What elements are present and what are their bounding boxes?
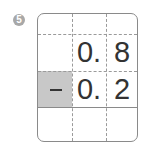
answer-tenths-cell[interactable] — [106, 111, 138, 141]
row-divider-1 — [38, 34, 137, 35]
problem-number-badge: 5 — [13, 14, 25, 26]
answer-operator-cell[interactable] — [38, 111, 72, 141]
row-divider-2 — [38, 71, 137, 72]
row1-ones-digit: 0. — [74, 38, 104, 67]
subtraction-grid: 0. 8 0. 2 — [37, 13, 138, 142]
row1-tenths-digit: 8 — [106, 38, 138, 67]
row2-ones-digit: 0. — [74, 75, 104, 104]
minus-sign — [50, 89, 62, 91]
row2-tenths-digit: 2 — [106, 75, 138, 104]
answer-ones-cell[interactable] — [74, 111, 104, 141]
answer-line — [38, 107, 137, 108]
